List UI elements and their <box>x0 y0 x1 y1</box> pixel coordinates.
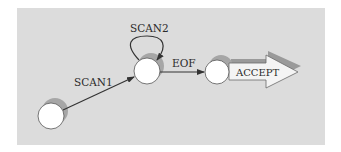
edge-label-scan1: SCAN1 <box>74 76 113 88</box>
state-node-start <box>38 103 64 129</box>
edge-label-eof: EOF <box>172 57 196 69</box>
state-node-eof <box>205 60 229 84</box>
state-diagram: SCAN1 SCAN2 EOF ACCEPT <box>0 0 341 152</box>
edge-label-scan2: SCAN2 <box>130 22 169 34</box>
accept-label: ACCEPT <box>235 67 280 78</box>
state-node-scan <box>134 58 160 84</box>
